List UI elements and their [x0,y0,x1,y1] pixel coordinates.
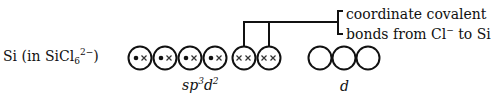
hybrid-label: sp3d2 [182,76,219,93]
annotation-text-end: to Si [454,26,491,42]
annotation-bracket [338,11,343,34]
d-orbital-label: d [340,78,349,94]
coordinate-bond-annotation: coordinate covalent bonds from Cl− to Si [346,6,491,42]
d-orbitals [309,47,380,70]
orbital-circle [357,47,380,70]
orbital-circle [233,47,256,70]
hybrid-orbitals [129,47,281,70]
annotation-text: bonds from Cl [346,26,446,42]
orbital-circle [333,47,356,70]
orbital-circle [129,47,152,70]
annotation-line-1: coordinate covalent [346,6,491,22]
orbital-circle [154,47,177,70]
hybrid-d: d [204,77,213,93]
chloride-charge: − [446,25,454,35]
d-label-text: d [340,78,349,94]
orbital-circle [309,47,332,70]
orbital-circle [204,47,227,70]
hybrid-sup-2: 2 [213,76,219,86]
annotation-line-2: bonds from Cl− to Si [346,22,491,42]
orbital-circle [258,47,281,70]
hybrid-sp: sp [182,77,198,93]
orbital-circle [179,47,202,70]
